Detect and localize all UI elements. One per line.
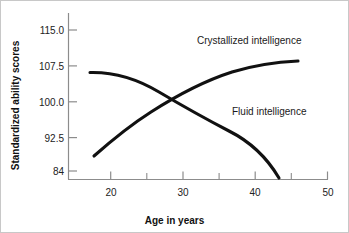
x-axis-title: Age in years [1,215,348,226]
series-line-crystallized [90,72,279,178]
y-axis-ticks [69,30,78,171]
y-tick-label-115: 115.0 [40,25,64,36]
x-tick-label-50: 50 [322,187,333,198]
curve-fluid-intelligence [90,72,279,178]
y-tick-label-92-5: 92.5 [45,133,64,144]
chart-figure: 115.0 107.5 100.0 92.5 84 20 30 40 50 Ag… [0,0,349,233]
x-tick-label-20: 20 [105,187,116,198]
y-tick-label-100: 100.0 [39,97,64,108]
x-tick-label-40: 40 [249,187,260,198]
series-label-fluid: Fluid intelligence [232,106,307,117]
x-axis-minor-ticks [147,173,291,180]
series-label-crystallized: Crystallized intelligence [197,35,302,46]
y-axis-title: Standardized ability scores [10,26,21,186]
y-tick-label-107-5: 107.5 [39,61,64,72]
x-tick-label-30: 30 [177,187,188,198]
y-tick-label-84: 84 [53,166,64,177]
